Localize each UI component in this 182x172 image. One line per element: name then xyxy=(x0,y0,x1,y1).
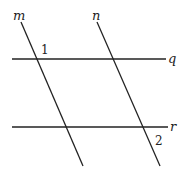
line-n xyxy=(97,22,160,166)
label-m: m xyxy=(13,8,25,23)
angle-1-label: 1 xyxy=(41,43,49,57)
label-n: n xyxy=(92,8,100,23)
angle-2-label: 2 xyxy=(155,134,163,148)
line-m xyxy=(21,22,83,166)
label-q: q xyxy=(168,51,176,66)
label-r: r xyxy=(170,119,177,134)
parallel-lines-diagram: m n q r 1 2 xyxy=(0,0,182,172)
